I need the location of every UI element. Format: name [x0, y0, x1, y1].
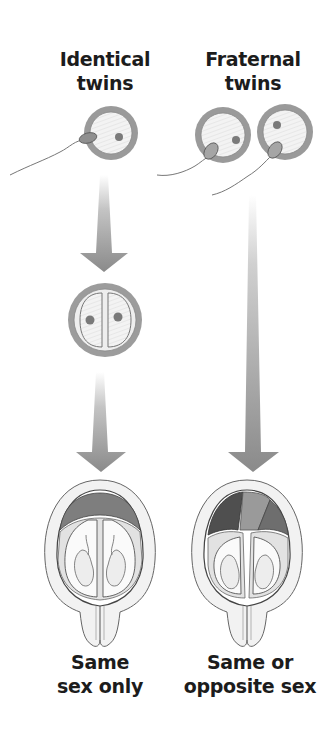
fraternal-caption: Same or opposite sex: [178, 650, 322, 698]
fraternal-caption-line1: Same or: [178, 650, 322, 674]
identical-caption-line1: Same: [40, 650, 160, 674]
fraternal-uterus-separate-placentas: [192, 480, 303, 646]
arrow-down-icon: [80, 175, 128, 272]
identical-egg-with-sperm: [10, 106, 138, 175]
fraternal-eggs-with-sperm: [157, 104, 313, 195]
identical-title-line2: twins: [45, 71, 165, 95]
identical-uterus-shared-placenta: [45, 480, 156, 646]
fraternal-title-line2: twins: [193, 71, 313, 95]
identical-twins-title: Identical twins: [45, 47, 165, 95]
arrow-down-icon: [228, 195, 279, 472]
twins-diagram: [0, 0, 327, 738]
arrow-down-icon: [76, 372, 126, 472]
identical-caption: Same sex only: [40, 650, 160, 698]
fraternal-caption-line2: opposite sex: [178, 674, 322, 698]
identical-caption-line2: sex only: [40, 674, 160, 698]
fraternal-twins-title: Fraternal twins: [193, 47, 313, 95]
identical-title-line1: Identical: [45, 47, 165, 71]
fraternal-title-line1: Fraternal: [193, 47, 313, 71]
identical-two-cell-embryo: [68, 283, 142, 357]
